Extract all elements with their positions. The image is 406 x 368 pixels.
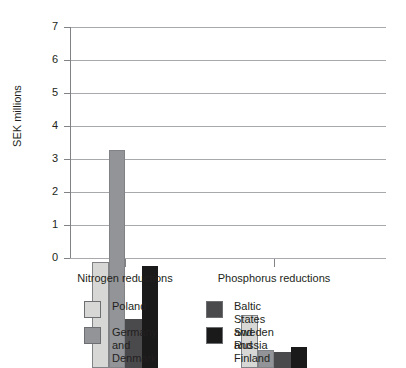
y-tick-mark-6 bbox=[64, 60, 70, 61]
category-label-phosphorus-reductions: Phosphorus reductions bbox=[204, 272, 344, 284]
y-tick-mark-3 bbox=[64, 159, 70, 160]
bar-sweden-and-finland-phosphorus-reductions bbox=[291, 347, 308, 368]
y-tick-label-2: 2 bbox=[40, 186, 58, 197]
gridline-6 bbox=[70, 60, 386, 61]
y-axis-line bbox=[70, 27, 71, 259]
legend-swatch-poland bbox=[84, 301, 101, 318]
legend-label-germany-and-denmark: Germany andDenmark bbox=[112, 326, 157, 365]
category-label-nitrogen-reductions: Nitrogen reductions bbox=[55, 272, 195, 284]
legend-swatch-germany-and-denmark bbox=[84, 327, 101, 344]
legend-label-poland: Poland bbox=[112, 300, 146, 313]
gridline-4 bbox=[70, 126, 386, 127]
legend-swatch-baltic-states-and-russia bbox=[206, 301, 223, 318]
y-tick-mark-5 bbox=[64, 93, 70, 94]
legend-label-sweden-and-finland: Sweden and Finland bbox=[234, 326, 274, 365]
y-tick-label-3: 3 bbox=[40, 153, 58, 164]
category-tick-0 bbox=[125, 259, 126, 267]
y-tick-mark-0 bbox=[64, 258, 70, 259]
y-tick-label-6: 6 bbox=[40, 54, 58, 65]
bar-baltic-states-and-russia-phosphorus-reductions bbox=[274, 352, 291, 368]
y-tick-label-4: 4 bbox=[40, 120, 58, 131]
y-tick-mark-2 bbox=[64, 192, 70, 193]
legend-swatch-sweden-and-finland bbox=[206, 327, 223, 344]
gridline-7 bbox=[70, 27, 386, 28]
category-tick-1 bbox=[274, 259, 275, 267]
y-tick-mark-4 bbox=[64, 126, 70, 127]
y-tick-label-1: 1 bbox=[40, 219, 58, 230]
gridline-5 bbox=[70, 93, 386, 94]
y-axis-title: SEK millions bbox=[11, 71, 23, 161]
y-tick-mark-1 bbox=[64, 225, 70, 226]
y-tick-label-5: 5 bbox=[40, 87, 58, 98]
bar-chart: 7 6 5 4 3 2 1 0 SEK millions Nitrogen re… bbox=[0, 0, 406, 368]
y-tick-mark-7 bbox=[64, 27, 70, 28]
y-tick-label-0: 0 bbox=[40, 252, 58, 263]
y-tick-label-7: 7 bbox=[40, 21, 58, 32]
